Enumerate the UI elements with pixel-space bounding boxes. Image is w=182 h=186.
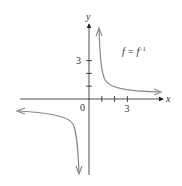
inverse-function-plot (0, 0, 182, 186)
x-tick-label-3: 3 (125, 104, 130, 114)
origin-label: 0 (80, 103, 85, 113)
annotation-text: f = f (122, 46, 139, 57)
curve-negative-branch (17, 108, 82, 174)
annotation-superscript: −1 (139, 46, 145, 52)
x-axis-label: x (166, 94, 170, 104)
y-tick-label-3: 3 (76, 56, 81, 66)
y-axis-label: y (86, 12, 90, 22)
function-annotation: f = f−1 (122, 46, 146, 57)
curve-positive-branch (96, 28, 161, 95)
